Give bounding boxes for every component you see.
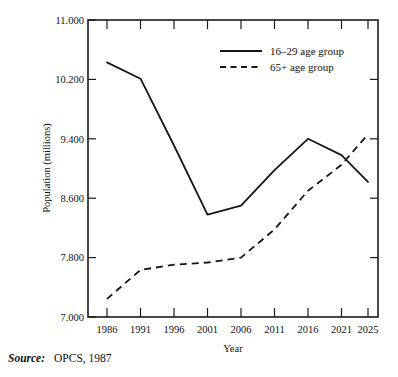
x-tick-label: 2016 (298, 324, 319, 335)
y-tick-labels: 11.000 10.200 9.400 8.600 7.800 7.000 (55, 15, 84, 323)
x-tick-label: 2006 (231, 324, 252, 335)
x-tick-label: 2001 (197, 324, 218, 335)
x-tick-label: 1986 (97, 324, 118, 335)
x-axis-ticks-top (107, 20, 368, 29)
x-tick-label: 1996 (164, 324, 185, 335)
x-tick-label: 2025 (358, 324, 379, 335)
y-tick-label: 11.000 (56, 15, 85, 26)
y-axis-title: Population (millions) (41, 123, 53, 213)
x-axis-title: Year (223, 343, 243, 354)
x-tick-label: 1991 (130, 324, 151, 335)
y-tick-label: 10.200 (55, 74, 84, 85)
source-value: OPCS, 1987 (54, 352, 112, 364)
x-axis-ticks (107, 308, 368, 317)
series-line-16-29 (107, 62, 368, 214)
legend: 16–29 age group 65+ age group (220, 45, 344, 73)
legend-label-65-plus: 65+ age group (270, 61, 334, 73)
y-tick-label: 7.800 (60, 252, 84, 263)
y-axis-ticks-right (370, 79, 378, 257)
source-note: Source:OPCS, 1987 (8, 352, 112, 364)
source-label: Source: (8, 352, 45, 364)
x-tick-labels: 1986 1991 1996 2001 2006 2011 2016 2021 … (97, 324, 379, 335)
y-tick-label: 9.400 (60, 134, 84, 145)
y-tick-label: 8.600 (60, 193, 84, 204)
figure-page: 11.000 10.200 9.400 8.600 7.800 7.000 19… (0, 0, 398, 377)
y-axis-ticks (88, 20, 96, 317)
chart-svg: 11.000 10.200 9.400 8.600 7.800 7.000 19… (0, 0, 398, 377)
line-chart: 11.000 10.200 9.400 8.600 7.800 7.000 19… (0, 0, 398, 377)
series-line-65-plus (107, 134, 368, 299)
x-tick-label: 2011 (264, 324, 285, 335)
plot-frame (88, 20, 378, 317)
legend-label-16-29: 16–29 age group (270, 45, 344, 57)
y-tick-label: 7.000 (60, 312, 84, 323)
x-tick-label: 2021 (331, 324, 352, 335)
